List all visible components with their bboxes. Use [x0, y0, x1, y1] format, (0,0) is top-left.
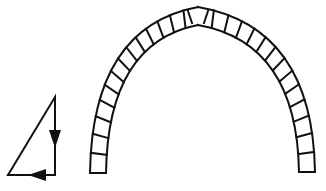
voussoir-joint [265, 47, 276, 61]
arch-extrados [90, 7, 315, 173]
diagram-canvas [0, 0, 326, 191]
arch-springing-bases [90, 172, 315, 173]
voussoir-joint [294, 116, 309, 122]
arch-intrados [106, 25, 299, 173]
voussoir-joint [126, 47, 137, 61]
voussoir-joint [146, 29, 154, 45]
voussoir-joint [236, 21, 242, 37]
pointed-arch [90, 7, 315, 173]
voussoir-joint [170, 15, 174, 32]
voussoir-joint [91, 153, 107, 155]
voussoir-joint [296, 133, 312, 137]
voussoir-joint [247, 29, 255, 45]
arrow-down-icon [49, 130, 61, 148]
voussoir-joint [188, 11, 192, 23]
voussoir-joint [118, 58, 130, 70]
arrow-left-icon [28, 169, 46, 181]
voussoir-joint [256, 37, 265, 52]
voussoir-joint [111, 71, 124, 82]
voussoir-joint [285, 84, 299, 94]
diagram-svg [0, 0, 326, 191]
voussoir-joint [298, 152, 314, 154]
voussoir-joint [273, 58, 285, 70]
force-polygon-outline [8, 97, 55, 175]
voussoir-joint [204, 11, 208, 23]
voussoir-joint [136, 37, 145, 52]
voussoir-joint [279, 71, 292, 82]
voussoir-joint [183, 10, 185, 28]
voussoir-joint [290, 99, 305, 107]
voussoir-joint [105, 85, 119, 95]
force-triangle [8, 97, 61, 181]
voussoir-joint [212, 10, 214, 28]
voussoir-joint [93, 134, 109, 138]
voussoir-joint [96, 116, 111, 122]
voussoir-joint [157, 21, 163, 37]
voussoir-joint [100, 100, 115, 108]
voussoir-joint [224, 15, 228, 32]
